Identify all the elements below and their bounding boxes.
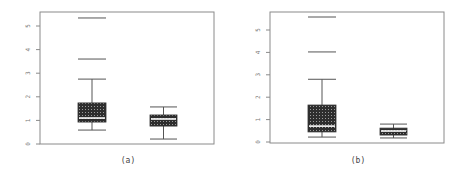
iqr-box [78, 103, 106, 122]
iqr-box [308, 105, 336, 132]
y-tick-label: 4 [24, 47, 31, 51]
y-tick-label: 2 [254, 95, 261, 99]
y-tick-label: 5 [24, 24, 31, 28]
y-tick-label: 3 [254, 73, 261, 77]
y-tick-label: 5 [254, 28, 261, 32]
plot-frame [270, 12, 444, 143]
box-1 [308, 17, 336, 137]
iqr-box [150, 115, 177, 126]
box-2 [150, 107, 177, 139]
y-tick-label: 1 [254, 117, 261, 121]
y-tick-label: 2 [24, 95, 31, 99]
box-2 [380, 124, 407, 138]
y-tick-label: 0 [24, 142, 31, 146]
y-tick-label: 0 [254, 140, 261, 144]
box-1 [78, 18, 106, 130]
plot-frame [40, 12, 214, 144]
y-tick-label: 4 [254, 50, 261, 54]
boxplot-figure: 012345(a) 012345(b) [0, 0, 462, 174]
boxplot-panel-b: 012345(b) [254, 12, 444, 165]
panel-caption: (b) [351, 156, 365, 165]
y-tick-label: 3 [24, 71, 31, 75]
panel-caption: (a) [121, 156, 135, 165]
boxplot-panel-a: 012345(a) [24, 12, 214, 165]
y-tick-label: 1 [24, 118, 31, 122]
